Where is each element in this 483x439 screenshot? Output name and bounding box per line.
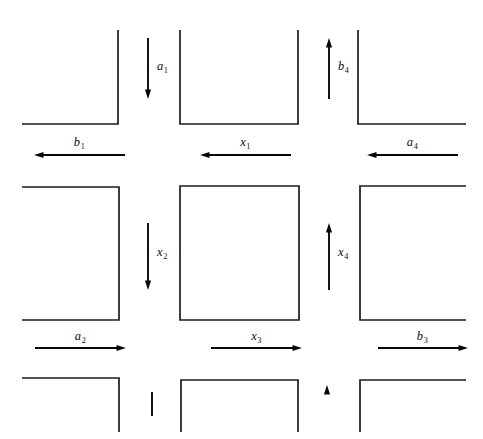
flow-arrow-b4	[326, 38, 332, 99]
label-subscript-x2: 2	[163, 252, 167, 261]
arrow-head	[145, 90, 151, 100]
arrow-head	[200, 152, 210, 158]
flow-arrow-x1	[200, 152, 291, 158]
label-base-a4: a	[407, 135, 413, 149]
label-subscript-a4: 4	[414, 142, 418, 151]
flow-label-b3: b3	[417, 330, 427, 343]
flow-arrow-x3	[211, 345, 302, 351]
flow-arrow-x2	[145, 223, 151, 290]
label-subscript-a1: 1	[164, 66, 168, 75]
label-base-x2: x	[157, 245, 163, 259]
label-base-x4: x	[338, 245, 344, 259]
arrow-head	[293, 345, 303, 351]
label-base-a2: a	[75, 329, 81, 343]
flow-arrow-a4	[367, 152, 458, 158]
city-block-middle-left	[22, 187, 119, 320]
flow-label-x2: x2	[157, 246, 167, 259]
label-base-x1: x	[240, 135, 246, 149]
label-subscript-b3: 3	[424, 336, 428, 345]
city-block-bottom-right	[360, 380, 466, 432]
label-subscript-x3: 3	[257, 336, 261, 345]
flow-label-a4: a4	[407, 136, 417, 149]
flow-arrows-layer	[34, 38, 468, 416]
label-subscript-b4: 4	[345, 66, 349, 75]
traffic-flow-diagram: a1b4b1x1a4x2x4a2x3b3	[0, 0, 483, 439]
arrow-head	[326, 223, 332, 233]
flow-label-b1: b1	[74, 136, 84, 149]
diagram-canvas	[0, 0, 483, 439]
arrow-head	[459, 345, 469, 351]
flow-arrow-a1	[145, 38, 151, 99]
city-block-bottom-left	[22, 378, 119, 432]
label-base-x3: x	[251, 329, 257, 343]
arrow-head	[367, 152, 377, 158]
city-block-top-right	[358, 30, 466, 124]
flow-label-x3: x3	[251, 330, 261, 343]
label-base-b3: b	[417, 329, 423, 343]
arrow-head	[324, 385, 330, 395]
label-subscript-x1: 1	[246, 142, 250, 151]
label-base-a1: a	[157, 59, 163, 73]
arrow-head	[326, 38, 332, 48]
flow-arrow-b1	[34, 152, 125, 158]
flow-arrow-clipped-bottom-right	[324, 385, 330, 416]
city-block-top-left	[22, 30, 118, 124]
flow-arrow-x4	[326, 223, 332, 290]
label-base-b4: b	[338, 59, 344, 73]
label-base-b1: b	[74, 135, 80, 149]
city-block-middle-right	[360, 186, 466, 320]
label-subscript-b1: 1	[81, 142, 85, 151]
city-blocks-layer	[22, 30, 466, 432]
arrow-head	[117, 345, 127, 351]
flow-label-b4: b4	[338, 60, 348, 73]
flow-label-a1: a1	[157, 60, 167, 73]
flow-label-x1: x1	[240, 136, 250, 149]
arrow-head	[34, 152, 44, 158]
label-subscript-x4: 4	[344, 252, 348, 261]
flow-label-a2: a2	[75, 330, 85, 343]
label-subscript-a2: 2	[82, 336, 86, 345]
arrow-head	[145, 281, 151, 291]
flow-label-x4: x4	[338, 246, 348, 259]
city-block-top-center	[180, 30, 298, 124]
city-block-middle-center	[180, 186, 299, 320]
flow-arrow-b3	[378, 345, 468, 351]
city-block-bottom-center	[181, 380, 298, 432]
flow-arrow-a2	[35, 345, 126, 351]
